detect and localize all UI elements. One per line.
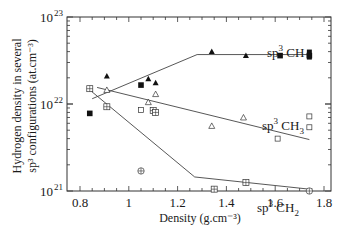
series-label: sp3 CH — [267, 43, 304, 60]
y-axis-label-line1: Hydrogen density in several — [10, 38, 24, 174]
filled-triangle-marker — [153, 80, 159, 86]
open-triangle-marker — [145, 99, 151, 105]
y-tick-label: 1021 — [40, 182, 63, 199]
y-tick-label: 1022 — [40, 95, 63, 112]
x-tick-label: 1.8 — [316, 195, 332, 210]
open-square-marker — [307, 125, 312, 130]
filled-bar-marker — [307, 50, 312, 60]
open-square-marker — [275, 136, 280, 141]
filled-square-marker — [87, 111, 93, 117]
y-axis-label-line2: sp³ configurations (at.cm⁻³) — [25, 39, 39, 173]
x-tick-label: 1.2 — [169, 195, 185, 210]
filled-triangle-marker — [209, 49, 215, 55]
series-label: sp3 CH2 — [257, 198, 299, 218]
open-triangle-marker — [209, 123, 215, 129]
filled-triangle-marker — [104, 73, 110, 79]
chart: 0.811.21.41.61.8102110221023 sp3 CHsp3 C… — [0, 0, 346, 232]
open-triangle-marker — [240, 114, 246, 120]
open-square-marker — [139, 108, 144, 113]
x-axis-label: Density (g.cm⁻³) — [159, 211, 241, 225]
labels: sp3 CHsp3 CH3sp3 CH2 — [257, 43, 304, 218]
x-tick-label: 1.4 — [218, 195, 235, 210]
filled-triangle-marker — [243, 53, 249, 59]
x-tick-label: 1 — [126, 195, 133, 210]
y-tick-label: 1023 — [40, 8, 64, 25]
fit-line — [92, 55, 309, 99]
filled-triangle-marker — [145, 76, 151, 82]
filled-square-marker — [138, 82, 144, 88]
open-triangle-marker — [153, 91, 159, 97]
open-square-marker — [307, 114, 312, 119]
x-tick-label: 0.8 — [72, 195, 88, 210]
